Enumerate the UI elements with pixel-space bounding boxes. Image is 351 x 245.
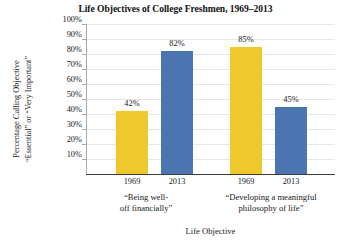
x-axis-title: Life Objective	[86, 226, 335, 236]
y-tick-label: 80%	[44, 46, 82, 54]
y-tick-mark	[82, 99, 86, 100]
y-axis-title: Percentage Calling Objective “Essential”…	[11, 23, 37, 195]
y-axis-title-line1: Percentage Calling Objective	[11, 23, 23, 195]
y-tick-mark	[82, 159, 86, 160]
y-tick-mark	[82, 144, 86, 145]
y-axis-tick-labels: 100%90%80%70%60%50%40%30%20%10%	[44, 20, 82, 174]
gridline	[86, 39, 335, 40]
bar-value-label: 42%	[106, 100, 158, 108]
group-label: “Developing a meaningfulphilosophy of li…	[196, 192, 346, 213]
gridline	[86, 69, 335, 70]
y-tick-label: 40%	[44, 106, 82, 114]
group-label-line1: “Being well-	[90, 192, 202, 203]
x-axis-line	[86, 174, 335, 175]
group-label-line1: “Developing a meaningful	[196, 192, 346, 203]
gridline	[86, 24, 335, 25]
bar-value-label: 82%	[151, 40, 203, 48]
y-tick-label: 50%	[44, 91, 82, 99]
group-label: “Being well-off financially”	[90, 192, 202, 213]
bar-value-label: 85%	[220, 36, 272, 44]
y-tick-mark	[82, 69, 86, 70]
gridline	[86, 54, 335, 55]
bar-value-label: 45%	[265, 96, 317, 104]
y-tick-mark	[82, 24, 86, 25]
y-tick-label: 70%	[44, 61, 82, 69]
y-tick-label: 60%	[44, 76, 82, 84]
bar	[161, 51, 193, 174]
y-tick-mark	[82, 39, 86, 40]
chart-title: Life Objectives of College Freshmen, 196…	[0, 3, 351, 14]
y-tick-mark	[82, 54, 86, 55]
y-tick-label: 30%	[44, 121, 82, 129]
y-axis-line	[86, 24, 87, 175]
y-tick-mark	[82, 114, 86, 115]
bar	[275, 107, 307, 175]
group-label-line2: philosophy of life”	[196, 203, 346, 214]
y-tick-label: 10%	[44, 151, 82, 159]
bar	[230, 47, 262, 175]
y-tick-mark	[82, 84, 86, 85]
group-label-line2: off financially”	[90, 203, 202, 214]
bar	[116, 111, 148, 174]
x-year-label: 2013	[265, 177, 317, 186]
y-axis-title-line2: “Essential” or “Very Important”	[23, 23, 35, 195]
y-tick-label: 90%	[44, 31, 82, 39]
y-tick-label: 100%	[44, 16, 82, 24]
y-tick-mark	[82, 129, 86, 130]
x-year-label: 2013	[151, 177, 203, 186]
chart-figure: Life Objectives of College Freshmen, 196…	[0, 0, 351, 245]
y-tick-label: 20%	[44, 136, 82, 144]
gridline	[86, 84, 335, 85]
